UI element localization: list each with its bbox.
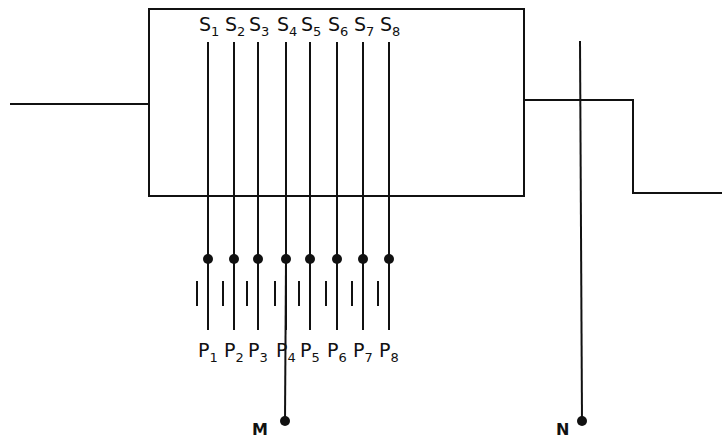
switch-s-label: S2 xyxy=(225,13,245,39)
contact-dot[interactable] xyxy=(253,254,263,264)
switch-p-label: P3 xyxy=(248,339,268,365)
switch-1: S1P1 xyxy=(197,13,219,365)
switch-7: S7P7 xyxy=(352,13,374,365)
switch-s-label: S6 xyxy=(328,13,348,39)
switch-2: S2P2 xyxy=(223,13,245,365)
switch-6: S6P6 xyxy=(326,13,348,365)
output-step-line xyxy=(524,100,722,193)
circuit-diagram: S1P1S2P2S3P3S4P4S5P5S6P6S7P7S8P8 M N xyxy=(0,0,728,447)
terminal-n-line xyxy=(580,41,582,421)
contact-dot[interactable] xyxy=(203,254,213,264)
contact-dot[interactable] xyxy=(281,254,291,264)
contact-dot[interactable] xyxy=(305,254,315,264)
switch-4: S4P4 xyxy=(275,13,297,365)
switch-p-label: P6 xyxy=(327,339,347,365)
switch-s-label: S3 xyxy=(249,13,269,39)
switch-8: S8P8 xyxy=(378,13,400,365)
switch-p-label: P7 xyxy=(353,339,373,365)
terminal-n-label: N xyxy=(556,420,569,439)
terminal-n-dot[interactable] xyxy=(577,416,587,426)
switch-s-label: S7 xyxy=(354,13,374,39)
switch-p-label: P1 xyxy=(198,339,218,365)
terminals: M N xyxy=(252,416,587,439)
switch-s-label: S4 xyxy=(277,13,297,39)
contact-dot[interactable] xyxy=(332,254,342,264)
switch-p-label: P8 xyxy=(379,339,399,365)
contact-dot[interactable] xyxy=(384,254,394,264)
switch-3: S3P3 xyxy=(247,13,269,365)
switch-5: S5P5 xyxy=(299,13,321,365)
switch-s-label: S1 xyxy=(199,13,219,39)
contact-dot[interactable] xyxy=(358,254,368,264)
terminal-m-dot[interactable] xyxy=(280,416,290,426)
switch-p-label: P2 xyxy=(224,339,244,365)
contact-dot[interactable] xyxy=(229,254,239,264)
terminal-m-label: M xyxy=(252,420,268,439)
switch-s-label: S5 xyxy=(301,13,321,39)
switch-array: S1P1S2P2S3P3S4P4S5P5S6P6S7P7S8P8 xyxy=(197,13,400,365)
switch-p-label: P5 xyxy=(300,339,320,365)
switch-s-label: S8 xyxy=(380,13,400,39)
